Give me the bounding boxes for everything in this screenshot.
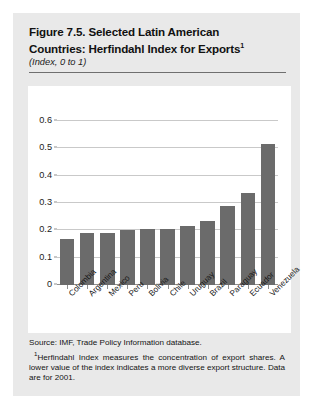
bar-slot (157, 121, 177, 285)
bar-slot (198, 121, 218, 285)
plot-panel: 00.10.20.30.40.50.6 ColombiaArgentinaMex… (28, 86, 291, 333)
footnote-text: Herfindahl Index measures the concentrat… (29, 353, 285, 382)
y-tick-label: 0 (47, 279, 52, 289)
x-label-slot: Brazil (198, 285, 218, 331)
bar-slot (137, 121, 157, 285)
footnote: 1Herfindahl Index measures the concentra… (29, 349, 285, 383)
bar-bolivia (140, 229, 155, 285)
x-label-slot: Argentina (77, 285, 97, 331)
y-tick-label: 0.4 (39, 170, 52, 180)
bar-slot (178, 121, 198, 285)
title-divider (29, 72, 286, 73)
x-label-slot: Colombia (57, 285, 77, 331)
x-label-slot: Paraguay (218, 285, 238, 331)
bar-paraguay (220, 206, 235, 285)
bar-slot (57, 121, 77, 285)
figure-title-footnote-marker: 1 (240, 42, 244, 49)
y-tick-label: 0.5 (39, 142, 52, 152)
x-label-slot: Chile (157, 285, 177, 331)
bar-slot (238, 121, 258, 285)
x-label-slot: Venezuela (258, 285, 278, 331)
figure-subtitle: (Index, 0 to 1) (29, 57, 86, 67)
figure-title-line-1: Figure 7.5. Selected Latin American (29, 25, 219, 38)
x-label-slot: Peru (117, 285, 137, 331)
bar-colombia (60, 239, 75, 285)
x-label-slot: Uruguay (178, 285, 198, 331)
bar-slot (77, 121, 97, 285)
bar-uruguay (180, 226, 195, 285)
figure-card: Figure 7.5. Selected Latin American Coun… (13, 13, 300, 396)
y-tick-label: 0.1 (39, 252, 52, 262)
x-axis-labels: ColombiaArgentinaMexicoPeruBoliviaChileU… (57, 285, 278, 331)
x-label-slot: Bolivia (137, 285, 157, 331)
figure-title-line-2: Countries: Herfindahl Index for Exports (29, 42, 240, 55)
bar-slot (218, 121, 238, 285)
bar-slot (97, 121, 117, 285)
plot-area: 00.10.20.30.40.50.6 (57, 121, 278, 285)
bar-venezuela (261, 144, 276, 285)
x-label-slot: Mexico (97, 285, 117, 331)
x-label-slot: Ecuador (238, 285, 258, 331)
bar-slot (117, 121, 137, 285)
y-tick-label: 0.3 (39, 197, 52, 207)
figure-title: Figure 7.5. Selected Latin American Coun… (29, 25, 286, 56)
bar-series (57, 121, 278, 285)
y-tick-label: 0.6 (39, 115, 52, 125)
figure-notes: Source: IMF, Trade Policy Information da… (29, 338, 285, 384)
bar-slot (258, 121, 278, 285)
source-note: Source: IMF, Trade Policy Information da… (29, 338, 285, 348)
y-tick-label: 0.2 (39, 224, 52, 234)
